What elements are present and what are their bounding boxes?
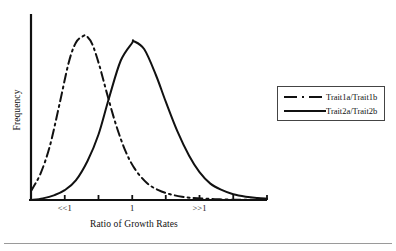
axes — [29, 14, 267, 200]
legend-item-trait2: Trait2a/Trait2b — [278, 104, 384, 118]
x-tick-label-much-greater-than-one: >>1 — [180, 203, 220, 213]
y-axis-title: Frequency — [12, 55, 22, 165]
legend-swatch-solid-icon — [282, 105, 326, 117]
figure: <<1 1 >>1 Ratio of Growth Rates Frequenc… — [0, 0, 396, 251]
legend-item-trait1: Trait1a/Trait1b — [278, 90, 384, 104]
footer-divider — [4, 243, 392, 244]
legend-swatch-dash-dot-icon — [282, 91, 326, 103]
chart-legend: Trait1a/Trait1b Trait2a/Trait2b — [277, 86, 385, 121]
x-tick-label-much-less-than-one: <<1 — [45, 203, 85, 213]
series-line-trait2 — [31, 40, 267, 200]
x-tick-label-one: 1 — [112, 203, 152, 213]
chart-plot-area — [0, 0, 396, 251]
legend-label-trait2: Trait2a/Trait2b — [326, 106, 377, 116]
legend-label-trait1: Trait1a/Trait1b — [326, 92, 377, 102]
x-axis-title: Ratio of Growth Rates — [0, 219, 268, 229]
